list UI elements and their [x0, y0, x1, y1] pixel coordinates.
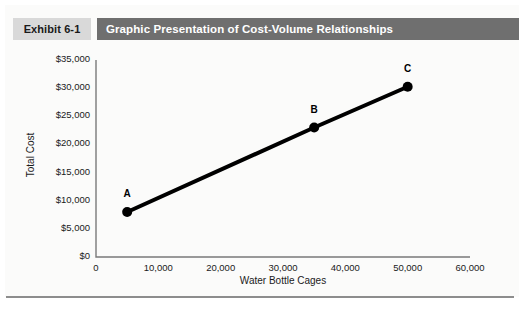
exhibit-figure: Exhibit 6-1 Graphic Presentation of Cost… [0, 0, 531, 312]
point-letter-label: C [398, 63, 418, 74]
chart-plot-area: Total Cost Water Bottle Cages $0$5,000$1… [0, 0, 531, 312]
chart-axes [96, 60, 470, 257]
chart-canvas [0, 0, 531, 312]
data-point-marker [309, 123, 319, 133]
data-point-marker [403, 82, 413, 92]
axis-spine [96, 60, 470, 257]
cost-line [127, 87, 408, 212]
point-letter-label: A [117, 188, 137, 199]
chart-series-line [127, 87, 408, 212]
data-point-marker [122, 207, 132, 217]
point-letter-label: B [304, 104, 324, 115]
